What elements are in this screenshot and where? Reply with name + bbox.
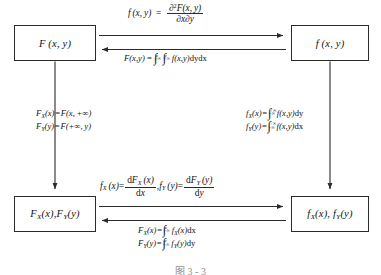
node-joint-cdf: F (x, y): [14, 25, 96, 61]
cdf-from-pdf-x-formula: FX(x) = ∫x−∞fX(x)dx: [138, 224, 196, 237]
node-marginal-cdfs: FX(x),FY(y): [14, 196, 96, 232]
node-marginal-pdfs-label: fX(x), fY(y): [307, 208, 352, 220]
label-bottom-backward-formulas: FX(x) = ∫x−∞fX(x)dx FY(y) = ∫y−∞fY(y)dy: [138, 224, 196, 251]
derivative-fraction-x: dFX (x)dx: [125, 175, 156, 198]
node-marginal-pdfs: fX(x), fY(y): [291, 196, 369, 232]
label-top-backward-formula: F(x,y) = ∫x−∞∫y−∞f(x,y)dydx: [124, 52, 207, 65]
integral-sign: ∫y−∞: [163, 55, 166, 62]
marginal-cdf-x-formula: FX(x) = F(x, +∞): [36, 107, 91, 120]
figure-caption: 图 3 - 3: [0, 263, 381, 275]
node-joint-cdf-label: F (x, y): [39, 38, 71, 49]
node-marginal-cdfs-label: FX(x),FY(y): [30, 208, 79, 220]
derivative-fraction-y: dFY (y)dy: [184, 175, 214, 198]
integral-sign: ∫+∞−∞: [268, 110, 271, 117]
integral-sign: ∫x−∞: [163, 227, 166, 234]
integral-sign: ∫y−∞: [162, 240, 165, 247]
node-joint-pdf-label: f (x, y): [316, 38, 345, 49]
integral-sign: ∫+∞−∞: [268, 123, 271, 130]
label-bottom-forward-formula: fX (x)=dFX (x)dx,fY (y)=dFY (y)dy: [100, 175, 215, 198]
label-left-down-formulas: FX(x) = F(x, +∞) FY(y) = F(+∞, y): [36, 107, 91, 134]
probability-relations-diagram: F (x, y) f (x, y) FX(x),FY(y) fX(x), fY(…: [0, 0, 381, 275]
node-joint-pdf: f (x, y): [291, 25, 369, 61]
marginal-pdf-y-formula: fY(y) = ∫+∞−∞f(x,y)dx: [246, 120, 303, 133]
integral-sign: ∫x−∞: [154, 55, 157, 62]
label-top-forward-formula: f (x, y) = ∂2F(x, y) ∂x∂y: [128, 3, 204, 25]
marginal-cdf-y-formula: FY(y) = F(+∞, y): [36, 120, 91, 133]
label-right-down-formulas: fX(x) = ∫+∞−∞f(x,y)dy fY(y) = ∫+∞−∞f(x,y…: [246, 107, 303, 134]
cdf-from-pdf-y-formula: FY(y) = ∫y−∞fY(y)dy: [138, 237, 196, 250]
marginal-pdf-x-formula: fX(x) = ∫+∞−∞f(x,y)dy: [246, 107, 303, 120]
partial-derivative-fraction: ∂2F(x, y) ∂x∂y: [167, 3, 203, 25]
